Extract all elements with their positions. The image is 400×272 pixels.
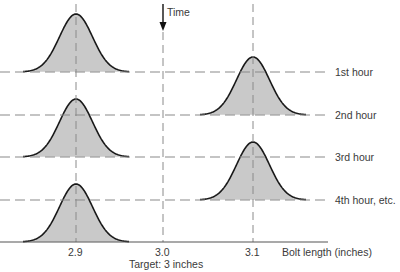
x-tick-3-0: 3.0 [155,247,170,258]
distribution-curves [23,14,306,242]
target-label: Target: 3 inches [129,259,203,270]
hour-label-3: 3rd hour [335,152,374,163]
hour-label-4: 4th hour, etc. [335,195,396,206]
hour-guide-lines [0,72,328,200]
bolt-length-diagram [0,0,400,272]
hour-label-1: 1st hour [335,67,373,78]
x-tick-3-1: 3.1 [245,247,260,258]
time-label: Time [167,7,190,18]
time-arrow-icon [160,4,167,31]
x-axis-label: Bolt length (inches) [282,247,372,258]
vertical-guide-lines [76,4,253,242]
x-tick-2-9: 2.9 [68,247,83,258]
hour-label-2: 2nd hour [335,110,376,121]
